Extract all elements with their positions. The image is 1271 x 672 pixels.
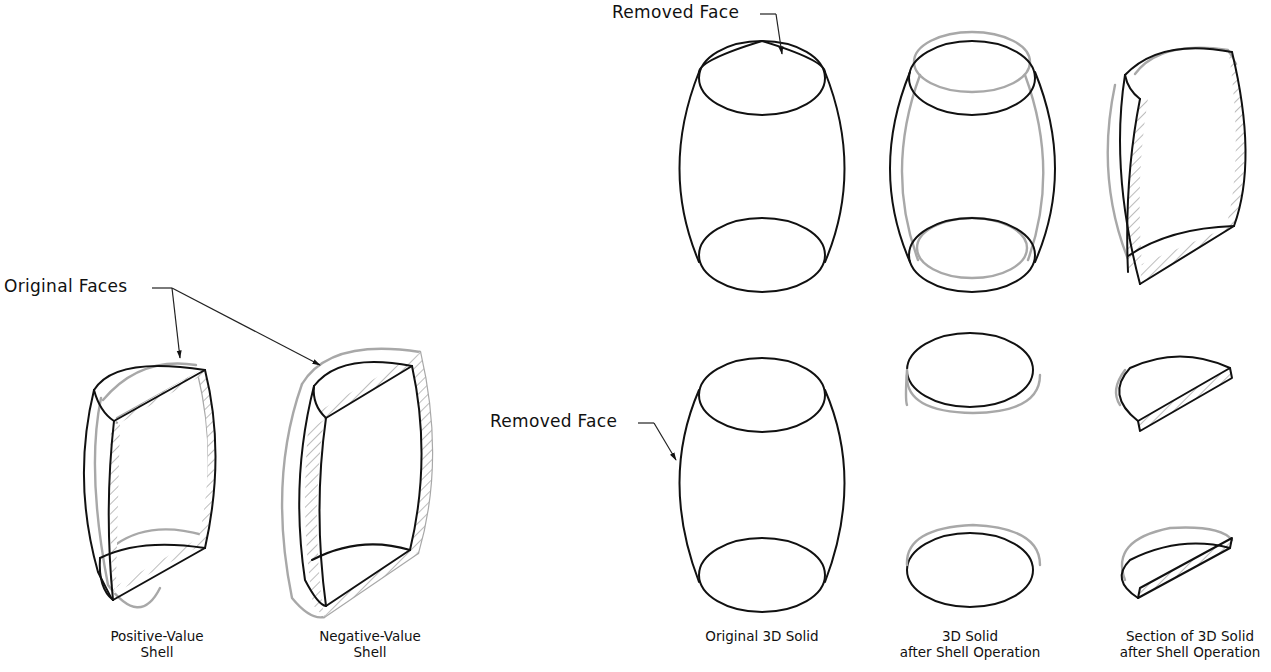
removed-face-side-leader (638, 423, 676, 460)
removed-face-top-leader (760, 14, 782, 54)
caption-negative-value-shell: Negative-ValueShell (319, 628, 421, 660)
original-solid-top (680, 41, 845, 292)
original-faces-leader (152, 288, 320, 365)
caption-positive-value-shell: Positive-ValueShell (110, 628, 203, 660)
shelled-caps (906, 333, 1040, 607)
caption-section-after-shell: Section of 3D Solidafter Shell Operation (1120, 628, 1261, 660)
shelled-solid-top (890, 32, 1055, 292)
original-faces-label: Original Faces (4, 276, 127, 296)
negative-value-shell-figure (282, 349, 432, 618)
shell-diagram (0, 0, 1271, 672)
removed-face-side-label: Removed Face (490, 411, 617, 431)
caption-original-3d-solid: Original 3D Solid (705, 628, 818, 644)
section-solid-top (1108, 48, 1246, 284)
original-solid-bottom (680, 358, 845, 612)
caption-3d-solid-after-shell: 3D Solidafter Shell Operation (900, 628, 1041, 660)
positive-value-shell-figure (84, 363, 216, 607)
removed-face-top-label: Removed Face (612, 2, 739, 22)
section-caps (1116, 357, 1232, 599)
